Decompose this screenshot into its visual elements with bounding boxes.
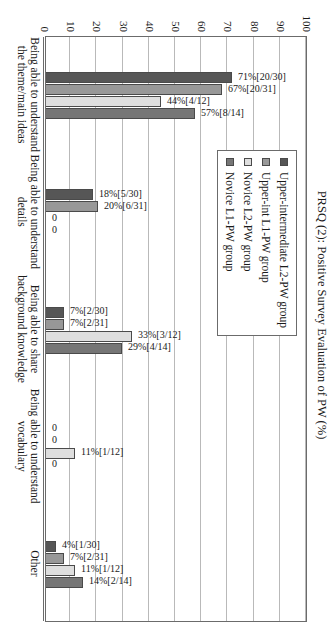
bar-value-label: 18%[5/30] xyxy=(99,188,142,199)
bar[interactable] xyxy=(46,84,222,95)
bar[interactable] xyxy=(46,96,161,107)
bar-value-label: 0 xyxy=(52,212,57,223)
y-tick-label: 10 xyxy=(65,21,77,32)
bar-value-label: 0 xyxy=(52,458,57,469)
bar-value-label: 0 xyxy=(52,434,57,445)
bar-value-label: 7%[2/30] xyxy=(70,305,108,316)
y-tick-label: 100 xyxy=(301,16,313,33)
bar-value-label: 7%[2/31] xyxy=(70,317,108,328)
bar-value-label: 57%[8/14] xyxy=(201,107,244,118)
y-tick-label: 50 xyxy=(170,21,182,32)
bar-value-label: 11%[1/12] xyxy=(81,446,123,457)
bar-value-label: 14%[2/14] xyxy=(89,575,132,586)
bar[interactable] xyxy=(46,201,98,212)
category-label: Being able to understand the theme/main … xyxy=(15,30,41,160)
y-tick-label: 40 xyxy=(144,21,156,32)
category-label: Being able to understand vocabulary xyxy=(15,381,41,511)
bar-value-label: 0 xyxy=(52,422,57,433)
bar[interactable] xyxy=(46,72,232,83)
bar-value-label: 67%[20/31] xyxy=(228,83,276,94)
y-tick-label: 20 xyxy=(91,21,103,32)
bar[interactable] xyxy=(46,319,64,330)
legend-label: Upper-int L1-PW group xyxy=(260,172,272,283)
legend-item[interactable]: Novice L2-PW group xyxy=(242,158,254,328)
legend-swatch-icon xyxy=(226,158,234,166)
bar-value-label: 11%[1/12] xyxy=(81,563,123,574)
legend-swatch-icon xyxy=(244,158,252,166)
chart-figure: PRSQ (2): Positive Survey Evaluation of … xyxy=(0,0,333,630)
legend-item[interactable]: Upper-int L1-PW group xyxy=(260,158,272,328)
bar[interactable] xyxy=(46,331,132,342)
category-label: Being able to share background knowledge xyxy=(15,264,41,394)
bar-value-label: 29%[4/14] xyxy=(128,341,171,352)
legend-item[interactable]: Novice L1-PW group xyxy=(224,158,236,328)
category-axis: Being able to understand the theme/main … xyxy=(1,36,43,622)
y-axis-title: PRSQ (2): Positive Survey Evaluation of … xyxy=(311,0,333,630)
legend-swatch-icon xyxy=(280,158,288,166)
bar[interactable] xyxy=(46,307,64,318)
bar[interactable] xyxy=(46,553,64,564)
y-tick-label: 60 xyxy=(196,21,208,32)
y-tick-label: 70 xyxy=(222,21,234,32)
bar[interactable] xyxy=(46,565,75,576)
bar[interactable] xyxy=(46,108,195,119)
bar-value-label: 7%[2/31] xyxy=(70,551,108,562)
legend-label: Novice L1-PW group xyxy=(224,172,236,271)
legend-label: Novice L2-PW group xyxy=(242,172,254,271)
bar[interactable] xyxy=(46,577,83,588)
y-tick-label: 30 xyxy=(118,21,130,32)
bar[interactable] xyxy=(46,448,75,459)
legend-item[interactable]: Upper-intermediate L2-PW group xyxy=(278,158,290,328)
y-tick-label: 80 xyxy=(249,21,261,32)
bar-value-label: 4%[1/30] xyxy=(62,539,100,550)
bar-value-label: 33%[3/12] xyxy=(138,329,181,340)
legend-label: Upper-intermediate L2-PW group xyxy=(278,172,290,328)
bar[interactable] xyxy=(46,541,56,552)
gridline xyxy=(43,37,44,621)
category-label: Being able to understand details xyxy=(15,147,41,277)
bar-value-label: 0 xyxy=(52,224,57,235)
bar[interactable] xyxy=(46,343,122,354)
bar[interactable] xyxy=(46,189,93,200)
bar-value-label: 20%[6/31] xyxy=(104,200,147,211)
chart-legend: Upper-intermediate L2-PW groupUpper-int … xyxy=(217,150,297,336)
bar-value-label: 44%[4/12] xyxy=(167,95,210,106)
legend-swatch-icon xyxy=(262,158,270,166)
value-axis-ticks: 0102030405060708090100 xyxy=(45,0,307,36)
y-tick-label: 90 xyxy=(275,21,287,32)
bar-value-label: 71%[20/30] xyxy=(238,71,286,82)
category-label: Other xyxy=(28,498,41,628)
